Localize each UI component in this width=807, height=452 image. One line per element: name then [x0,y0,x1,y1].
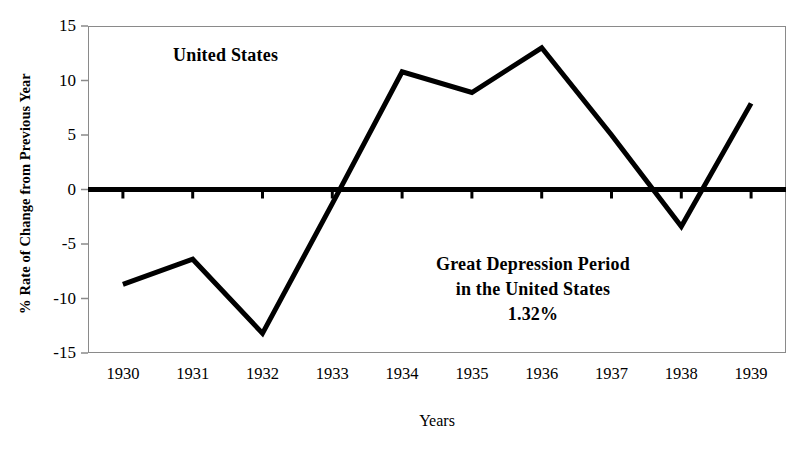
annotation-depression-line-1: Great Depression Period [398,252,668,277]
annotation-depression-note: Great Depression Period in the United St… [398,252,668,327]
annotation-country-label: United States [173,45,278,66]
x-axis-title: Years [88,412,786,430]
x-axis-tick-label: 1939 [716,365,786,382]
x-axis-tick-label: 1934 [367,365,437,382]
y-axis-tick-label: -15 [32,344,76,361]
y-axis-title: % Rate of Change from Previous Year [17,24,34,364]
y-axis-tick-label: 5 [32,126,76,143]
x-axis-tick-label: 1936 [507,365,577,382]
x-axis-tick-label: 1935 [437,365,507,382]
y-axis-tick-label: -10 [32,290,76,307]
annotation-depression-line-2: in the United States [398,277,668,302]
x-axis-tick-label: 1930 [88,365,158,382]
chart-figure: % Rate of Change from Previous Year 1510… [0,0,807,452]
x-axis-tick-label: 1938 [646,365,716,382]
y-axis-tick-label: 0 [32,181,76,198]
y-axis-tick-label: 10 [32,72,76,89]
y-axis-tick-label: 15 [32,17,76,34]
x-axis-tick-label: 1931 [158,365,228,382]
annotation-depression-line-3: 1.32% [398,302,668,327]
x-axis-tick-label: 1937 [577,365,647,382]
x-axis-tick-label: 1932 [228,365,298,382]
x-axis-tick-label: 1933 [297,365,367,382]
y-axis-tick-label: -5 [32,235,76,252]
y-axis-ticks [81,26,88,353]
